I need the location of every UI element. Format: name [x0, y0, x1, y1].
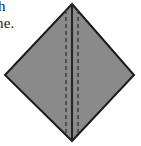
- caption-fragment-top: h: [0, 0, 6, 14]
- caption-text-fragments: h ne.: [0, 0, 34, 34]
- figure-container: h ne.: [0, 0, 141, 146]
- caption-fragment-bottom: ne.: [0, 16, 15, 31]
